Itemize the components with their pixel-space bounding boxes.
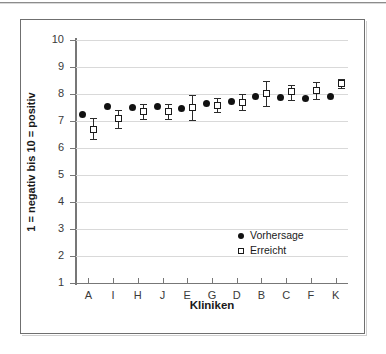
- error-bar-cap: [140, 104, 147, 105]
- chart-legend: Vorhersage Erreicht: [236, 228, 304, 258]
- data-point-erreicht: [165, 108, 172, 115]
- y-axis-tick: [70, 202, 76, 203]
- data-point-vorhersage: [104, 103, 111, 110]
- gridline: [76, 67, 348, 68]
- gridline: [76, 148, 348, 149]
- plot-area: 12345678910AIHJEGDBCFK: [76, 40, 348, 283]
- gridline: [76, 256, 348, 257]
- data-point-erreicht: [90, 126, 97, 133]
- error-bar-cap: [165, 104, 172, 105]
- y-axis-tick-label: 7: [24, 115, 64, 126]
- error-bar-cap: [189, 95, 196, 96]
- y-axis-tick-label: 8: [24, 88, 64, 99]
- y-axis-title-wrapper: 1 = negativ bis 10 = positiv: [24, 40, 38, 283]
- chart-figure: 1 = negativ bis 10 = positiv 12345678910…: [0, 0, 386, 354]
- error-bar-cap: [165, 119, 172, 120]
- x-axis-tick: [286, 278, 287, 283]
- legend-label: Vorhersage: [250, 229, 304, 241]
- y-axis-tick-label: 6: [24, 142, 64, 153]
- error-bar-cap: [214, 98, 221, 99]
- data-point-vorhersage: [228, 98, 235, 105]
- error-bar-cap: [263, 81, 270, 82]
- y-axis-tick: [70, 94, 76, 95]
- data-point-vorhersage: [203, 100, 210, 107]
- y-axis-tick-label: 5: [24, 169, 64, 180]
- error-bar-cap: [115, 110, 122, 111]
- x-axis-tick: [212, 278, 213, 283]
- legend-label: Erreicht: [250, 244, 286, 256]
- legend-item-erreicht: Erreicht: [236, 243, 304, 258]
- figure-border-shadow-bottom: [22, 335, 367, 336]
- error-bar-cap: [90, 118, 97, 119]
- error-bar-cap: [239, 110, 246, 111]
- x-axis-tick: [113, 278, 114, 283]
- figure-border-shadow-right: [366, 21, 367, 335]
- data-point-vorhersage: [302, 95, 309, 102]
- x-axis-tick: [336, 278, 337, 283]
- x-axis-tick: [138, 278, 139, 283]
- y-axis-tick: [70, 148, 76, 149]
- x-axis-tick: [237, 278, 238, 283]
- top-rule-shadow: [0, 3, 386, 4]
- y-axis-tick-label: 9: [24, 61, 64, 72]
- error-bar-cap: [313, 99, 320, 100]
- data-point-vorhersage: [178, 105, 185, 112]
- data-point-vorhersage: [129, 104, 136, 111]
- error-bar-cap: [288, 85, 295, 86]
- error-bar-cap: [288, 100, 295, 101]
- data-point-erreicht: [239, 99, 246, 106]
- error-bar-cap: [214, 112, 221, 113]
- y-axis-tick-label: 2: [24, 250, 64, 261]
- data-point-erreicht: [288, 88, 295, 95]
- data-point-erreicht: [338, 80, 345, 87]
- y-axis-tick-label: 4: [24, 196, 64, 207]
- y-axis-tick: [70, 121, 76, 122]
- data-point-vorhersage: [79, 111, 86, 118]
- error-bar-cap: [115, 128, 122, 129]
- data-point-erreicht: [140, 108, 147, 115]
- y-axis-tick-label: 1: [24, 277, 64, 288]
- error-bar-cap: [263, 106, 270, 107]
- y-axis-tick: [70, 229, 76, 230]
- error-bar-cap: [140, 119, 147, 120]
- data-point-erreicht: [313, 87, 320, 94]
- x-axis-tick: [311, 278, 312, 283]
- data-point-erreicht: [263, 90, 270, 97]
- y-axis-tick-label: 3: [24, 223, 64, 234]
- x-axis-tick: [163, 278, 164, 283]
- x-axis-tick: [187, 278, 188, 283]
- y-axis-tick: [70, 40, 76, 41]
- x-axis-title: Kliniken: [76, 299, 348, 311]
- data-point-vorhersage: [154, 103, 161, 110]
- y-axis-tick: [70, 67, 76, 68]
- y-axis-title: 1 = negativ bis 10 = positiv: [25, 92, 37, 231]
- x-axis-line: [75, 283, 348, 284]
- data-point-erreicht: [214, 102, 221, 109]
- y-axis-tick: [70, 256, 76, 257]
- data-point-vorhersage: [327, 93, 334, 100]
- data-point-erreicht: [189, 104, 196, 111]
- legend-item-vorhersage: Vorhersage: [236, 228, 304, 243]
- open-square-icon: [238, 248, 244, 254]
- gridline: [76, 229, 348, 230]
- gridline: [76, 40, 348, 41]
- error-bar-cap: [338, 88, 345, 89]
- filled-circle-icon: [238, 233, 244, 239]
- error-bar-cap: [239, 94, 246, 95]
- data-point-vorhersage: [252, 93, 259, 100]
- error-bar-cap: [189, 120, 196, 121]
- y-axis-tick: [70, 175, 76, 176]
- y-axis-tick: [70, 283, 76, 284]
- error-bar-cap: [90, 139, 97, 140]
- gridline: [76, 175, 348, 176]
- data-point-vorhersage: [277, 94, 284, 101]
- data-point-erreicht: [115, 115, 122, 122]
- x-axis-tick: [261, 278, 262, 283]
- y-axis-line: [75, 38, 77, 285]
- gridline: [76, 202, 348, 203]
- error-bar-cap: [313, 82, 320, 83]
- y-axis-tick-label: 10: [24, 34, 64, 45]
- x-axis-tick: [88, 278, 89, 283]
